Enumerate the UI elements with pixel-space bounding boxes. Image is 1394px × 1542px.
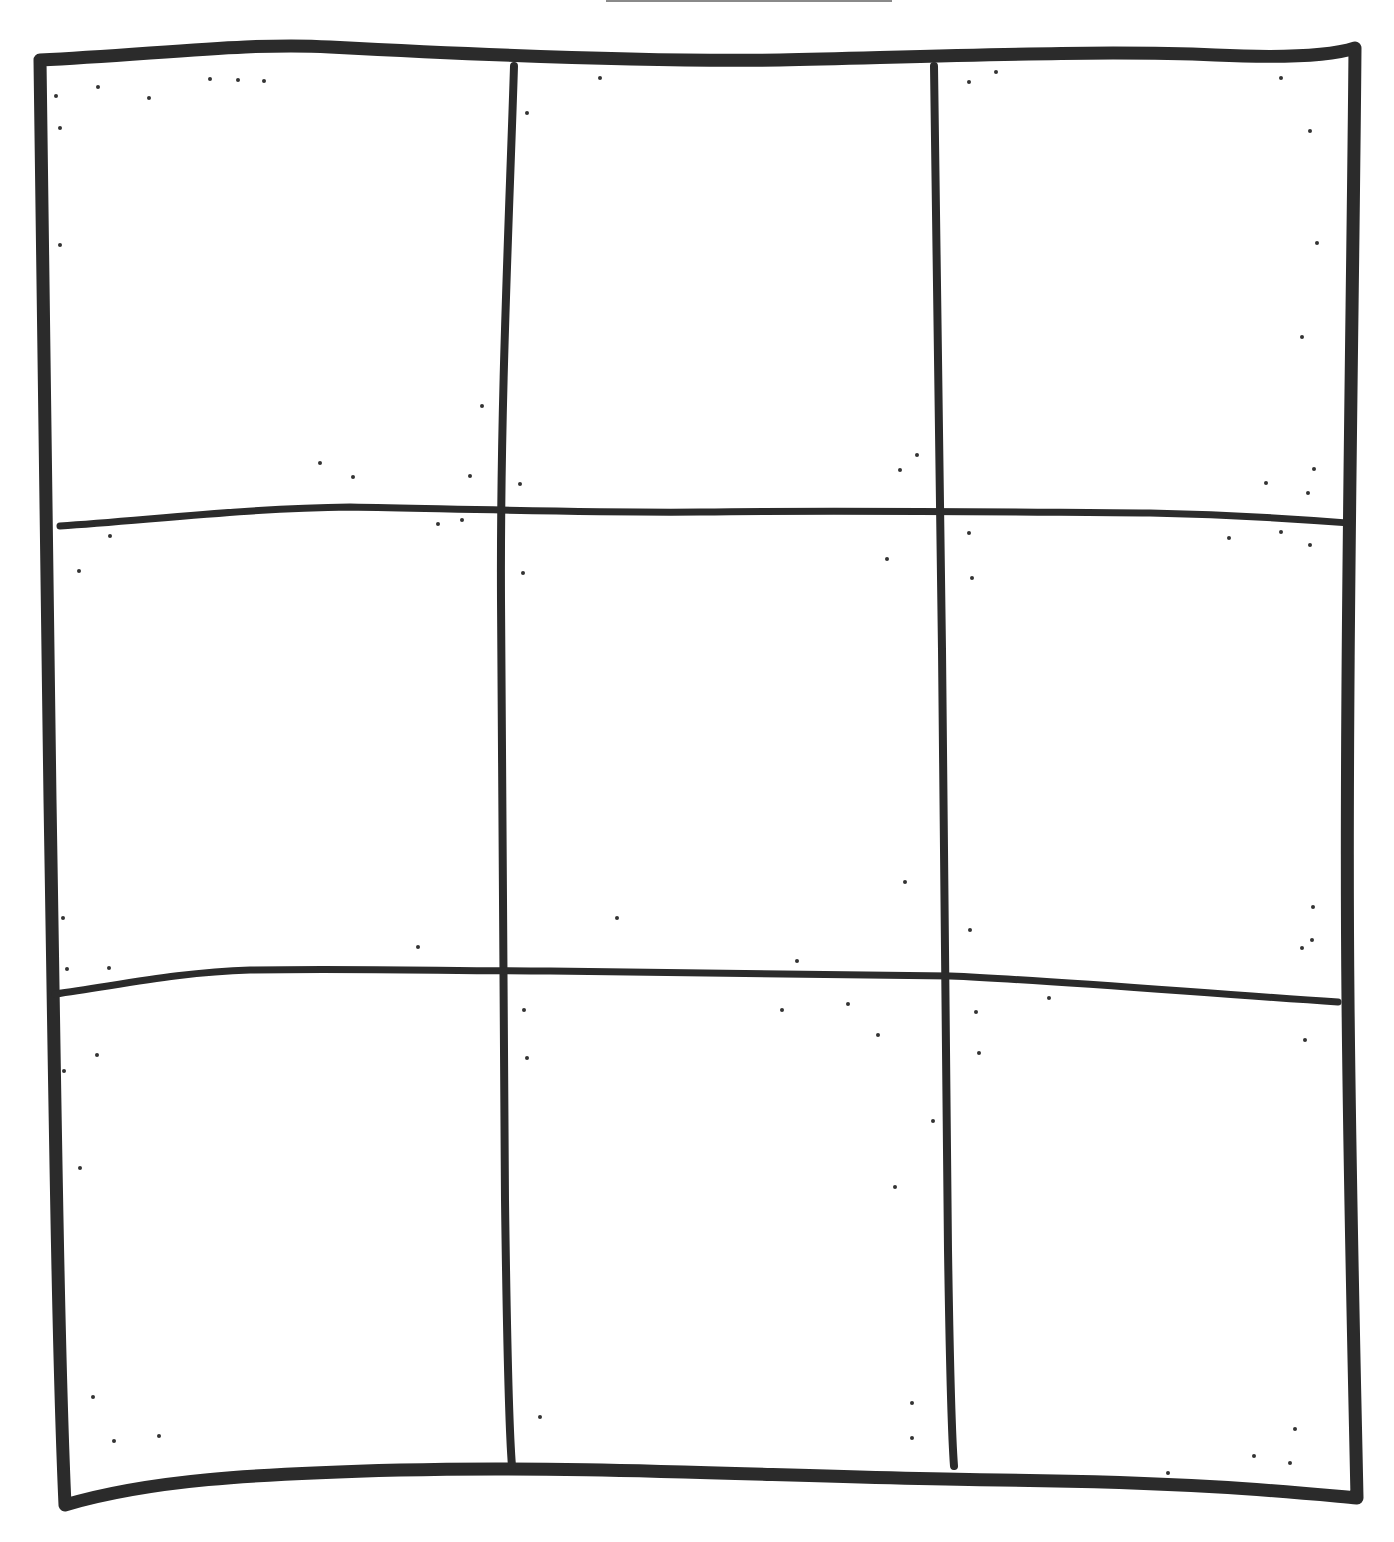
grid-cell-r1c2[interactable]	[510, 62, 938, 514]
speckle-dot	[1166, 1471, 1170, 1475]
grid-cell-r1c3[interactable]	[940, 62, 1350, 514]
grid-cell-r3c3[interactable]	[951, 980, 1353, 1468]
grid-drawing	[0, 0, 1394, 1542]
grid-cell-r3c2[interactable]	[507, 980, 949, 1468]
grid-cell-r2c3[interactable]	[944, 516, 1350, 978]
grid-cell-r3c1[interactable]	[55, 980, 507, 1468]
grid-cells	[50, 62, 1353, 1468]
grid-cell-r2c1[interactable]	[50, 516, 505, 978]
grid-cell-r2c2[interactable]	[505, 516, 942, 978]
grid-cell-r1c1[interactable]	[50, 62, 508, 514]
